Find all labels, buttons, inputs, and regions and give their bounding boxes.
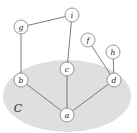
node-label-a: a [65, 111, 70, 120]
node-b[interactable]: b [14, 73, 28, 87]
node-c[interactable]: c [60, 62, 74, 76]
node-f[interactable]: f [81, 33, 95, 47]
graph-canvas: g i f h b c d [0, 0, 137, 133]
node-label-b: b [19, 76, 24, 85]
node-h[interactable]: h [106, 45, 120, 59]
node-label-c: c [65, 65, 70, 74]
node-i[interactable]: i [65, 8, 79, 22]
node-d[interactable]: d [107, 73, 121, 87]
node-g[interactable]: g [14, 20, 28, 34]
node-label-g: g [19, 23, 24, 32]
node-label-d: d [112, 76, 117, 85]
node-label-h: h [111, 48, 116, 57]
node-a[interactable]: a [60, 108, 74, 122]
edge-g-i [21, 15, 72, 27]
graph-figure: g i f h b c d [0, 0, 137, 133]
region-label-c: C [14, 102, 23, 115]
